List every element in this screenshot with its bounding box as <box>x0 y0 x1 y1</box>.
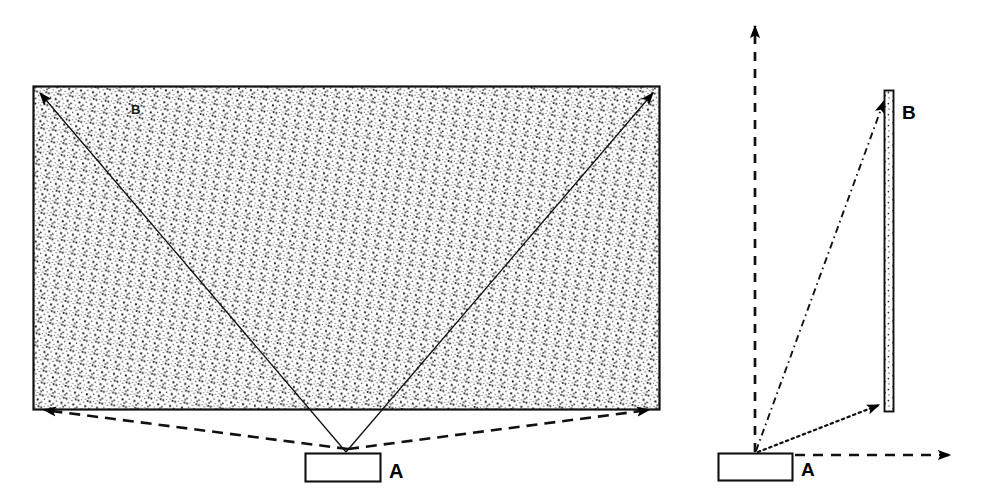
left-area-label-b: B <box>131 102 140 117</box>
coverage-plane-bar <box>885 91 894 412</box>
ray-to-bottom-left-corner <box>44 410 348 449</box>
ray-to-bar-top <box>756 101 884 451</box>
right-source-label-a: A <box>801 459 815 480</box>
technical-diagram: B A B A <box>0 0 982 502</box>
diagram-canvas: B A B A <box>0 0 982 502</box>
source-box-a <box>306 454 381 482</box>
ray-to-bottom-right-corner <box>348 410 649 449</box>
left-source-label-a: A <box>389 460 403 482</box>
ray-to-bar-bottom <box>758 405 879 452</box>
coverage-area-rectangle <box>34 87 660 410</box>
source-box-a-right <box>719 454 793 481</box>
right-panel-side-elevation <box>719 26 951 481</box>
left-panel-front-elevation <box>34 87 660 482</box>
right-area-label-b: B <box>902 102 916 123</box>
